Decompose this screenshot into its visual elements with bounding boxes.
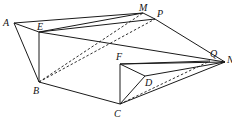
vertex-label-e: E [36, 21, 43, 32]
vertex-label-m: M [138, 2, 148, 13]
edge-bc [39, 82, 120, 104]
edge-mp [143, 13, 155, 19]
hidden-edges [39, 13, 210, 104]
vertex-label-q: Q [210, 48, 218, 59]
vertex-label-p: P [156, 8, 163, 19]
figure-canvas: A E M P B F Q N D C [0, 0, 232, 121]
vertex-label-d: D [144, 77, 153, 88]
edge-dn [145, 62, 225, 76]
edge-en [39, 32, 225, 62]
geometry-figure: A E M P B F Q N D C [0, 0, 232, 121]
vertex-label-n: N [226, 54, 232, 65]
vertex-labels: A E M P B F Q N D C [2, 2, 232, 119]
edge-am [14, 13, 143, 23]
hidden-edge-bm [39, 13, 143, 82]
edge-cn [120, 62, 225, 104]
vertex-label-b: B [33, 85, 39, 96]
vertex-label-a: A [2, 17, 10, 28]
edge-ab [14, 23, 39, 82]
vertex-label-c: C [114, 108, 121, 119]
vertex-label-f: F [115, 51, 123, 62]
edge-dc [120, 76, 145, 104]
edge-fd [120, 64, 145, 76]
